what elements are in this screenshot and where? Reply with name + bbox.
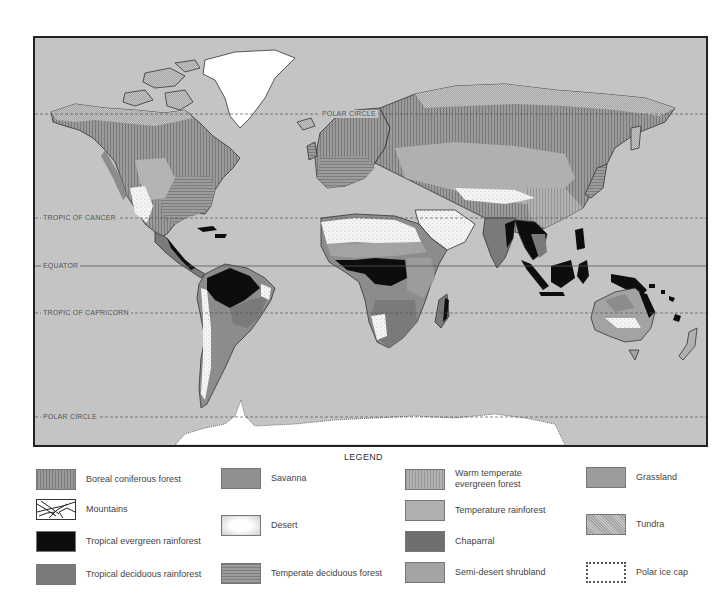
swatch-temperate-rainforest-icon (405, 500, 445, 521)
label-antarctic-circle: POLAR CIRCLE (41, 413, 99, 421)
swatch-boreal-icon (36, 469, 76, 490)
legend-item-chaparral: Chaparral (405, 529, 495, 553)
new-zealand (679, 328, 697, 360)
swatch-grassland-icon (586, 467, 626, 488)
swatch-tropical-evergreen-icon (36, 531, 76, 552)
philippines (575, 228, 585, 250)
swatch-warm-temperate-icon (405, 469, 445, 490)
greenland (203, 50, 295, 128)
sulawesi (577, 260, 589, 284)
label-tropic-of-cancer: TROPIC OF CANCER (41, 214, 118, 222)
map-graphic (35, 38, 706, 445)
iceland (297, 118, 315, 130)
swatch-temperate-deciduous-icon (221, 563, 261, 584)
swatch-mountains-icon (36, 499, 76, 520)
swatch-chaparral-icon (405, 531, 445, 552)
caribbean (197, 226, 227, 238)
label-arctic-circle: POLAR CIRCLE (320, 110, 378, 118)
legend-item-temperate-deciduous-forest: Temperate deciduous forest (221, 561, 382, 585)
antarctica (175, 400, 565, 445)
swatch-tropical-deciduous-icon (36, 564, 76, 585)
swatch-semi-desert-icon (405, 562, 445, 583)
legend-item-mountains: Mountains (36, 497, 128, 521)
legend-item-temperature-rainforest: Temperature rainforest (405, 498, 546, 522)
swatch-tundra-icon (586, 514, 626, 535)
legend-item-desert: Desert (221, 513, 298, 537)
swatch-polar-ice-icon (586, 562, 626, 583)
legend-item-tropical-deciduous-rainforest: Tropical deciduous rainforest (36, 562, 201, 586)
borneo (551, 260, 575, 288)
world-biome-map: POLAR CIRCLE TROPIC OF CANCER EQUATOR TR… (33, 36, 708, 447)
swatch-savanna-icon (221, 468, 261, 489)
swatch-desert-icon (221, 515, 261, 536)
arctic-islands (123, 60, 200, 110)
kamchatka (631, 126, 641, 150)
label-equator: EQUATOR (41, 262, 80, 270)
legend-item-tundra: Tundra (586, 512, 664, 536)
east-africa (407, 258, 435, 298)
legend-item-tropical-evergreen-rainforest: Tropical evergreen rainforest (36, 529, 201, 553)
legend-item-boreal-coniferous-forest: Boreal coniferous forest (36, 467, 181, 491)
europe-temperate (317, 156, 375, 188)
legend-item-savanna: Savanna (221, 466, 307, 490)
legend-item-grassland: Grassland (586, 465, 677, 489)
legend-item-polar-ice-cap: Polar ice cap (586, 560, 688, 584)
legend-item-semi-desert-shrubland: Semi-desert shrubland (405, 560, 546, 584)
legend-item-warm-temperate-evergreen-forest: Warm temperate evergreen forest (405, 467, 555, 491)
label-tropic-of-capricorn: TROPIC OF CAPRICORN (41, 309, 131, 317)
tasmania (629, 350, 639, 360)
legend-title: LEGEND (344, 452, 383, 462)
sumatra (521, 260, 549, 290)
java (539, 292, 565, 296)
